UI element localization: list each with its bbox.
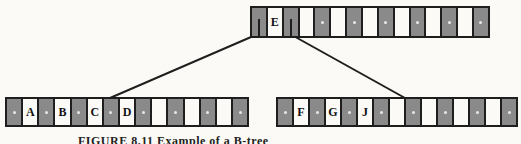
null-pointer-dot [13,111,16,114]
pointer-cell [39,99,53,125]
key-cell: B [55,99,69,125]
pointer-cell [438,99,452,125]
pointer-cell [374,99,388,125]
pointer-cell [470,99,484,125]
key-cell [458,8,472,36]
pointer-cell [310,99,324,125]
edge-root-to-left [110,34,258,98]
null-pointer-dot [444,111,447,114]
null-pointer-dot [109,111,112,114]
null-pointer-dot [448,21,451,24]
pointer-cell [474,8,488,36]
pointer-cell [442,8,456,36]
pointer-cell [284,8,298,36]
pointer-cell [315,8,329,36]
null-pointer-dot [348,111,351,114]
pointer-cell [72,99,86,125]
key-cell [390,99,404,125]
null-pointer-dot [416,21,419,24]
key-cell [331,8,345,36]
pointer-cell [104,99,118,125]
pointer-cell [342,99,356,125]
null-pointer-dot [380,111,383,114]
pointer-cell [136,99,150,125]
key-cell [300,8,314,36]
pointer-cell [278,99,292,125]
pointer-cell [7,99,21,125]
key-cell: C [88,99,102,125]
null-pointer-dot [45,111,48,114]
key-cell: J [358,99,372,125]
figure-caption: FIGURE 8.11 Example of a B-tree [78,134,269,144]
root-node: E [250,6,490,38]
key-cell [422,99,436,125]
null-pointer-dot [353,21,356,24]
null-pointer-dot [316,111,319,114]
null-pointer-dot [174,111,177,114]
null-pointer-dot [476,111,479,114]
pointer-stem [258,19,260,36]
pointer-cell [406,99,420,125]
pointer-cell [201,99,215,125]
key-cell [486,99,500,125]
pointer-cell [502,99,516,125]
pointer-stem [290,19,292,36]
pointer-cell [411,8,425,36]
left-child-node: ABCD [5,97,249,127]
null-pointer-dot [239,111,242,114]
key-cell [454,99,468,125]
key-cell: G [326,99,340,125]
key-cell [152,99,166,125]
null-pointer-dot [142,111,145,114]
null-pointer-dot [77,111,80,114]
null-pointer-dot [284,111,287,114]
key-cell [185,99,199,125]
edge-root-to-right [290,34,405,98]
key-cell: A [23,99,37,125]
null-pointer-dot [508,111,511,114]
pointer-cell [168,99,182,125]
null-pointer-dot [412,111,415,114]
key-cell [363,8,377,36]
pointer-cell [379,8,393,36]
null-pointer-dot [479,21,482,24]
key-cell: E [268,8,282,36]
key-cell [217,99,231,125]
key-cell: D [120,99,134,125]
key-cell [426,8,440,36]
null-pointer-dot [206,111,209,114]
right-child-node: FGJ [276,97,518,127]
key-cell: F [294,99,308,125]
null-pointer-dot [384,21,387,24]
pointer-cell [252,8,266,36]
pointer-cell [233,99,247,125]
null-pointer-dot [321,21,324,24]
key-cell [395,8,409,36]
pointer-cell [347,8,361,36]
